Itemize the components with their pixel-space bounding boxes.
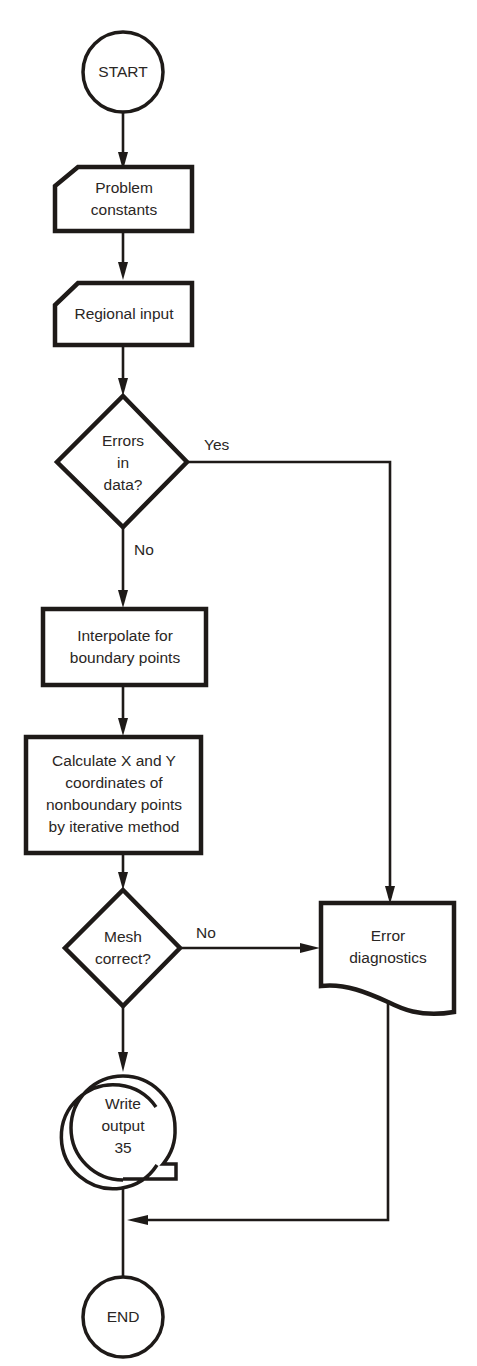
errors-no-label: No (134, 541, 154, 559)
mesh-no-label: No (196, 924, 216, 942)
errors-yes-label: Yes (204, 436, 229, 454)
start-label: START (83, 61, 163, 83)
calculate-label: Calculate X and Y coordinates of nonboun… (28, 750, 200, 838)
problem-constants-label: Problem constants (58, 177, 190, 221)
write-output-label: Write output 35 (73, 1093, 173, 1159)
regional-input-label: Regional input (58, 303, 190, 325)
errors-decision-label: Errors in data? (73, 430, 173, 496)
mesh-decision-label: Mesh correct? (73, 926, 173, 970)
error-diagnostics-label: Error diagnostics (323, 925, 453, 969)
interpolate-label: Interpolate for boundary points (45, 625, 205, 669)
end-label: END (83, 1306, 163, 1328)
